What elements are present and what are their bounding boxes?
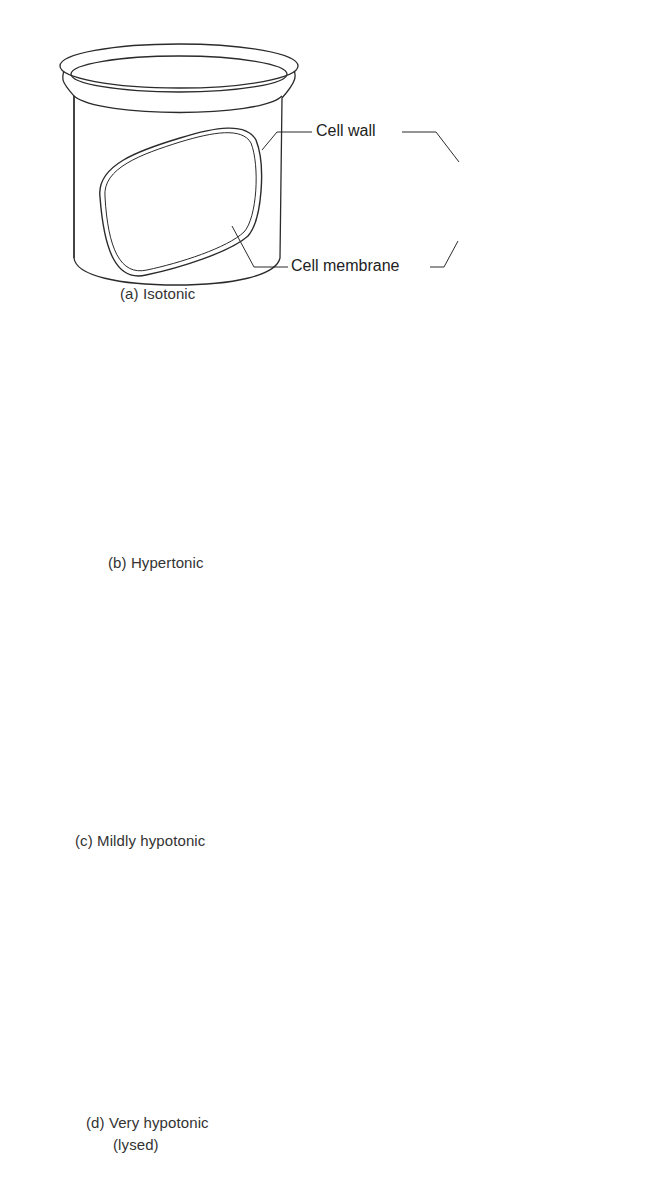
osmosis-diagram (0, 0, 656, 1177)
panel-a-callout-lines (232, 132, 459, 267)
caption-hypertonic: (b) Hypertonic (108, 554, 204, 571)
caption-lysed: (lysed) (113, 1136, 159, 1153)
label-cell-membrane: Cell membrane (291, 257, 399, 275)
caption-very-hypotonic: (d) Very hypotonic (86, 1114, 209, 1131)
panel-a-beaker (60, 44, 298, 285)
panel-a-cell (100, 128, 262, 276)
label-cell-wall: Cell wall (316, 122, 376, 140)
caption-isotonic: (a) Isotonic (120, 285, 195, 302)
caption-mildly-hypotonic: (c) Mildly hypotonic (75, 832, 205, 849)
